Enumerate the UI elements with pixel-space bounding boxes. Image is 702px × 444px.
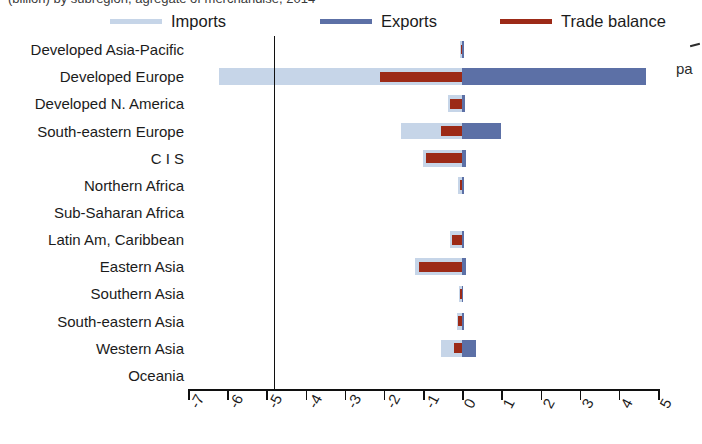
chart-canvas: (billion) by subregion, agregate of merc… <box>0 0 702 444</box>
category-label: South-eastern Asia <box>0 314 184 329</box>
category-label: Latin Am, Caribbean <box>0 232 184 247</box>
category-label: Sub-Saharan Africa <box>0 205 184 220</box>
bar-balance-row <box>188 45 658 55</box>
bar-group-row <box>188 367 658 384</box>
bar-balance-row <box>188 153 658 163</box>
category-label: Northern Africa <box>0 178 184 193</box>
legend-line-swatch <box>110 19 162 24</box>
zero-reference-line <box>274 36 276 390</box>
bar-balance-row <box>188 235 658 245</box>
chart-legend: ImportsExportsTrade balance <box>0 10 702 32</box>
bar-trade-balance <box>419 262 462 272</box>
bar-group-row <box>188 204 658 221</box>
x-axis-tick-label: 2 <box>539 396 558 411</box>
legend-item-imports[interactable]: Imports <box>110 10 226 32</box>
category-label: Developed N. America <box>0 96 184 111</box>
category-label: Western Asia <box>0 341 184 356</box>
bar-trade-balance <box>460 289 462 299</box>
bar-balance-row <box>188 343 658 353</box>
category-label: Southern Asia <box>0 286 184 301</box>
clipped-title-strip: (billion) by subregion, agregate of merc… <box>0 0 702 9</box>
category-label: Developed Europe <box>0 69 184 84</box>
legend-item-trade-balance[interactable]: Trade balance <box>500 10 666 32</box>
legend-label: Imports <box>171 10 226 32</box>
clipped-right-tick-icon <box>690 43 700 47</box>
x-axis-tick-label: 1 <box>499 396 518 411</box>
legend-label: Trade balance <box>561 10 666 32</box>
clipped-right-annotation: pa <box>676 60 702 86</box>
bar-balance-row <box>188 289 658 299</box>
x-axis-tick-label: -6 <box>225 391 246 411</box>
x-axis-tick-label: -1 <box>421 391 442 411</box>
bar-balance-row <box>188 72 658 82</box>
bar-trade-balance <box>441 126 463 136</box>
bar-trade-balance <box>454 343 462 353</box>
bar-balance-row <box>188 180 658 190</box>
category-axis-labels: Developed Asia-PacificDeveloped EuropeDe… <box>0 36 184 389</box>
x-axis-tick-label: 4 <box>617 396 636 411</box>
x-axis-tick-label: -7 <box>186 391 207 411</box>
x-axis-tick-label: 5 <box>656 396 675 411</box>
x-axis-tick-label: 3 <box>578 396 597 411</box>
clipped-title-text: (billion) by subregion, agregate of merc… <box>8 0 315 6</box>
category-label: Oceania <box>0 368 184 383</box>
bar-balance-row <box>188 262 658 272</box>
bar-trade-balance <box>450 99 462 109</box>
category-label: Eastern Asia <box>0 259 184 274</box>
legend-line-swatch <box>320 19 372 24</box>
bar-balance-row <box>188 316 658 326</box>
legend-line-swatch <box>500 19 552 24</box>
category-label: C I S <box>0 151 184 166</box>
x-axis-tick-label: -5 <box>264 391 285 411</box>
plot-area <box>188 36 658 389</box>
bar-trade-balance <box>460 180 462 190</box>
legend-label: Exports <box>381 10 437 32</box>
bar-trade-balance <box>426 153 462 163</box>
bar-trade-balance <box>380 72 462 82</box>
bar-balance-row <box>188 99 658 109</box>
bar-trade-balance <box>461 45 463 55</box>
bar-trade-balance <box>458 316 462 326</box>
bar-trade-balance <box>452 235 462 245</box>
x-axis-tick-label: 0 <box>460 396 479 411</box>
clipped-right-annotation-text: pa <box>676 60 693 77</box>
category-label: South-eastern Europe <box>0 124 184 139</box>
legend-item-exports[interactable]: Exports <box>320 10 437 32</box>
category-label: Developed Asia-Pacific <box>0 42 184 57</box>
bar-balance-row <box>188 126 658 136</box>
